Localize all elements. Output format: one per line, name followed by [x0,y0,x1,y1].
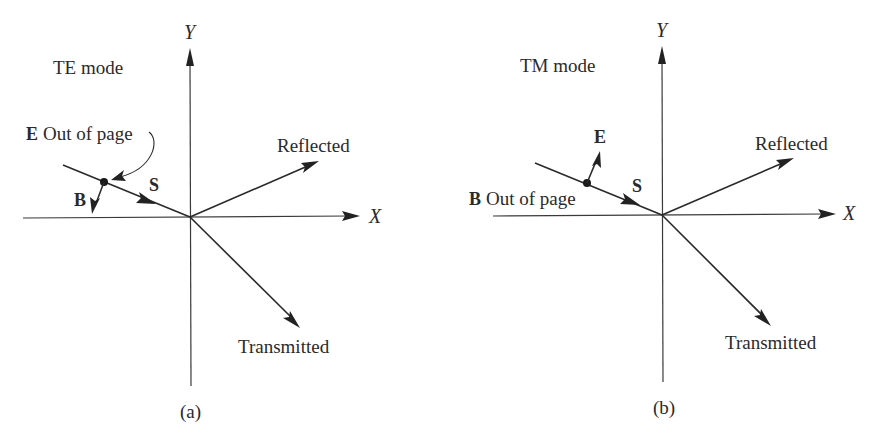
panel-a-y-axis: Y [184,21,197,386]
panel-b-tm-mode: Y X TM mode S E [469,19,856,419]
panel-b-x-label: X [842,202,856,224]
panel-b-caption: (b) [653,397,675,419]
panel-b-e-vector: E [587,127,606,183]
panel-b-transmitted-ray: Transmitted [662,215,817,353]
panel-b-mode-label: TM mode [520,55,595,76]
panel-a-x-label: X [368,205,382,227]
transmitted-arrow-icon [754,309,771,326]
y-axis-arrow-icon [658,46,666,64]
panel-a-out-of-page-label: EOut of page [26,123,133,144]
panel-b-e-label: E [594,127,606,147]
panel-a-b-vector: B [74,182,104,214]
y-axis-arrow-icon [186,48,194,66]
panel-b-out-of-page-label: BOut of page [469,188,576,209]
e-arrow-icon [592,151,601,168]
panel-a-caption: (a) [180,401,201,423]
panel-b-y-label: Y [656,19,669,41]
panel-a-out-of-page-annotation: EOut of page [26,123,154,181]
panel-b-reflected-ray: Reflected [662,133,828,215]
panel-a-transmitted-ray: Transmitted [190,217,330,357]
b-arrow-icon [90,197,100,214]
panel-a-reflected-label: Reflected [277,135,350,156]
panel-a-y-label: Y [184,21,197,43]
figure-canvas: Y X TE mode S B [0,0,880,446]
transmitted-arrow-icon [283,311,300,328]
panel-a-b-label: B [74,190,86,210]
panel-b-y-axis: Y [656,19,669,382]
panel-a-transmitted-label: Transmitted [238,336,330,357]
panel-b-transmitted-label: Transmitted [725,332,817,353]
panel-a-s-label: S [149,175,159,195]
te-tm-mode-figure: Y X TE mode S B [0,0,880,446]
panel-b-s-label: S [632,176,642,196]
panel-a-reflected-ray: Reflected [190,135,350,217]
panel-a-mode-label: TE mode [53,57,123,78]
panel-a-te-mode: Y X TE mode S B [23,21,382,423]
panel-b-reflected-label: Reflected [755,133,828,154]
